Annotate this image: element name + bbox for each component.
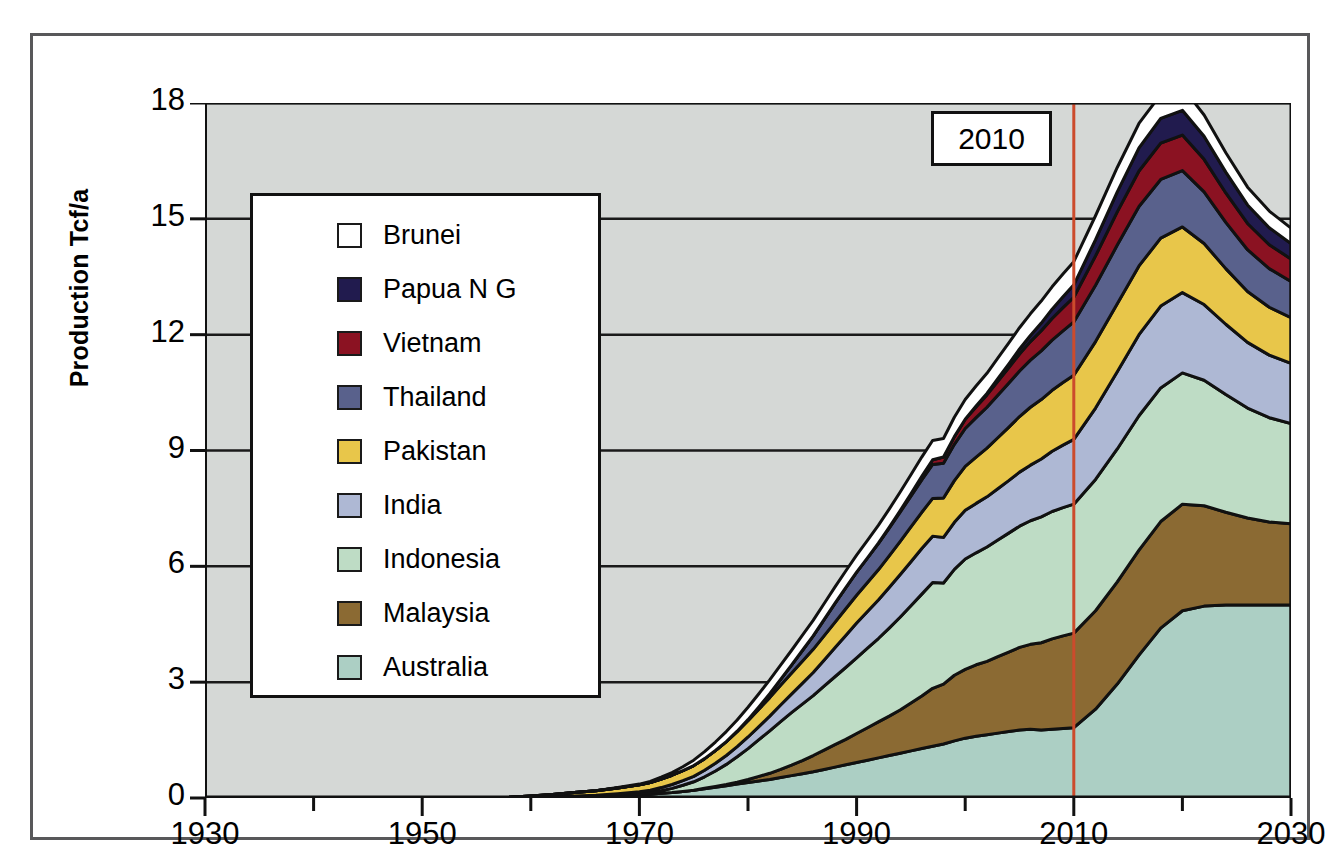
legend-item: India [253,478,598,532]
y-axis-title: Production Tcf/a [65,138,105,438]
y-tick-label: 12 [125,314,185,350]
y-tick-label: 0 [125,777,185,813]
legend-swatch-icon [337,547,362,572]
legend-item-label: India [383,492,442,519]
legend-item-label: Pakistan [383,438,487,465]
legend-item: Malaysia [253,586,598,640]
legend-swatch-icon [337,601,362,626]
x-axis-tick-labels: 193019501970199020102030 [205,816,1291,861]
chart-legend: BruneiPapua N GVietnamThailandPakistanIn… [250,193,601,698]
legend-item: Thailand [253,370,598,424]
x-tick-label: 2030 [1221,816,1338,852]
legend-item-label: Malaysia [383,600,490,627]
y-tick-label: 15 [125,198,185,234]
legend-swatch-icon [337,655,362,680]
legend-item: Brunei [253,208,598,262]
x-tick-label: 1930 [135,816,275,852]
legend-swatch-icon [337,493,362,518]
x-tick-label: 1970 [569,816,709,852]
legend-swatch-icon [337,223,362,248]
legend-swatch-icon [337,385,362,410]
legend-item: Pakistan [253,424,598,478]
x-tick-label: 1990 [787,816,927,852]
legend-item-label: Vietnam [383,330,482,357]
legend-item: Vietnam [253,316,598,370]
legend-swatch-icon [337,439,362,464]
legend-item: Australia [253,640,598,694]
chart-page: Production Tcf/a 1815129630 193019501970… [0,0,1338,866]
legend-swatch-icon [337,331,362,356]
legend-item-label: Indonesia [383,546,500,573]
legend-item: Papua N G [253,262,598,316]
y-axis-tick-labels: 1815129630 [125,103,185,798]
y-tick-label: 18 [125,82,185,118]
figure-frame: Production Tcf/a 1815129630 193019501970… [30,33,1310,840]
legend-item-label: Papua N G [383,276,517,303]
legend-item-label: Australia [383,654,488,681]
x-tick-label: 2010 [1004,816,1144,852]
y-tick-label: 3 [125,661,185,697]
y-tick-label: 9 [125,430,185,466]
year-callout-box: 2010 [931,111,1052,166]
legend-item-label: Brunei [383,222,461,249]
legend-swatch-icon [337,277,362,302]
x-tick-label: 1950 [352,816,492,852]
legend-item-label: Thailand [383,384,487,411]
y-tick-label: 6 [125,545,185,581]
legend-item: Indonesia [253,532,598,586]
